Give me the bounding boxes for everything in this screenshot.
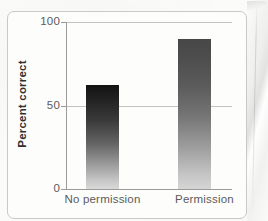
- y-tick-mark-100: [61, 22, 66, 23]
- y-axis-line: [66, 22, 67, 189]
- x-category-label-permission: Permission: [144, 193, 265, 205]
- bar-permission: [178, 39, 211, 189]
- gridline-100: [66, 22, 232, 23]
- y-axis-title: Percent correct: [16, 49, 28, 159]
- scanned-page-background: 100 50 0 Percent correct No permission P…: [0, 0, 268, 221]
- bar-chart: 100 50 0 Percent correct No permission P…: [0, 0, 268, 221]
- bar-no-permission: [86, 85, 119, 189]
- x-axis-line: [66, 189, 232, 190]
- y-tick-label-100: 100: [40, 16, 60, 28]
- y-tick-mark-0: [61, 189, 66, 190]
- y-tick-mark-50: [61, 106, 66, 107]
- y-tick-label-50: 50: [47, 100, 60, 112]
